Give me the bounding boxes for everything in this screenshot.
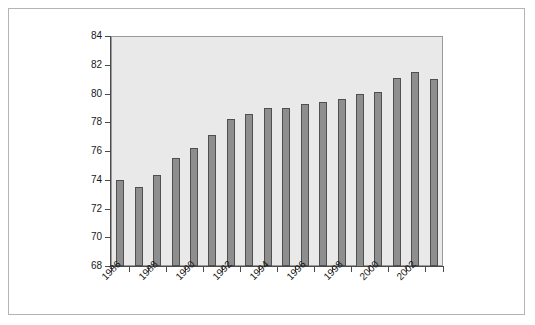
bar [190, 148, 198, 266]
x-tick-mark [425, 267, 426, 272]
x-tick-mark [388, 267, 389, 272]
x-tick-label: 1986 [100, 259, 123, 282]
bar [430, 79, 438, 266]
y-tick-mark [105, 209, 110, 210]
y-axis-line [110, 36, 111, 267]
bar [319, 102, 327, 266]
x-tick-mark [314, 267, 315, 272]
y-tick-label: 68 [80, 261, 102, 271]
x-tick-mark [443, 267, 444, 272]
x-tick-mark [351, 267, 352, 272]
x-tick-mark [277, 267, 278, 272]
y-tick-mark [105, 122, 110, 123]
y-tick-label: 80 [80, 89, 102, 99]
y-tick-mark [105, 36, 110, 37]
y-tick-label: 78 [80, 117, 102, 127]
y-tick-label: 76 [80, 146, 102, 156]
x-tick-mark [129, 267, 130, 272]
bar [208, 135, 216, 266]
y-tick-mark [105, 151, 110, 152]
bar [393, 78, 401, 266]
y-tick-mark [105, 65, 110, 66]
bar [338, 99, 346, 266]
y-tick-label: 74 [80, 175, 102, 185]
y-tick-label: 72 [80, 204, 102, 214]
x-tick-mark [166, 267, 167, 272]
bar [153, 175, 161, 266]
bar [301, 104, 309, 266]
bar [116, 180, 124, 266]
y-tick-label: 82 [80, 60, 102, 70]
bar [227, 119, 235, 266]
bar [135, 187, 143, 266]
bar [172, 158, 180, 266]
bar [356, 94, 364, 267]
bar-chart: 848280787674727068 198619881990199219941… [0, 0, 535, 325]
x-tick-mark [240, 267, 241, 272]
y-tick-label: 70 [80, 232, 102, 242]
bar [374, 92, 382, 266]
bar [264, 108, 272, 266]
y-tick-label: 84 [80, 31, 102, 41]
x-tick-mark [203, 267, 204, 272]
y-tick-mark [105, 94, 110, 95]
y-tick-mark [105, 180, 110, 181]
y-tick-mark [105, 237, 110, 238]
bar [282, 108, 290, 266]
bar [245, 114, 253, 266]
bar [411, 72, 419, 266]
